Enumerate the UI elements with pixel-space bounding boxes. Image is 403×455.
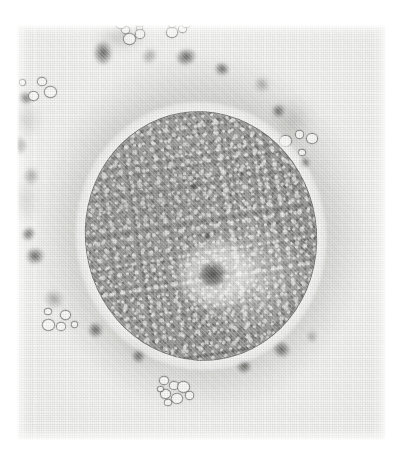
cluster-top-left-member bbox=[136, 30, 144, 37]
micrograph-page bbox=[0, 0, 403, 455]
ooplasm-tonal-shading bbox=[68, 96, 334, 377]
cluster-bot-left-member bbox=[72, 322, 77, 327]
cluster-left-member bbox=[38, 78, 46, 85]
nucleolus bbox=[198, 262, 225, 286]
cluster-left-member bbox=[20, 80, 25, 85]
granule-top-1 bbox=[93, 40, 113, 66]
cluster-top-left-member bbox=[137, 26, 142, 31]
cluster-top-right-member bbox=[167, 28, 177, 37]
oocyte-body bbox=[67, 94, 335, 377]
cluster-left-member bbox=[45, 87, 56, 97]
cluster-bot-left-member bbox=[61, 311, 70, 319]
cluster-bot-left-member bbox=[57, 323, 65, 330]
cluster-bot-member bbox=[178, 382, 189, 392]
micrograph-plate bbox=[17, 25, 386, 440]
cluster-left-member bbox=[29, 92, 38, 100]
cluster-top-left-member bbox=[124, 34, 135, 44]
cluster-bot-member bbox=[165, 400, 171, 405]
oocyte bbox=[67, 94, 335, 377]
cluster-right-member bbox=[307, 134, 317, 143]
cluster-bot-member bbox=[160, 377, 168, 384]
cluster-bot-member bbox=[186, 392, 193, 398]
cluster-bot-member bbox=[172, 394, 182, 403]
